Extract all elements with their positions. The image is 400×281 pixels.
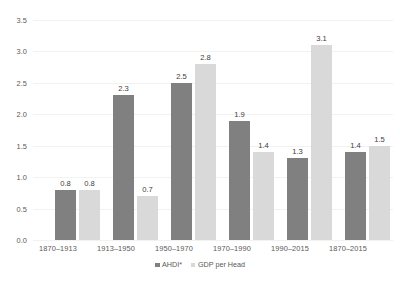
y-tick-label: 2.0 — [16, 111, 27, 118]
bar-group: 1.9 1.4 — [229, 20, 279, 246]
legend-swatch-icon — [191, 263, 196, 268]
legend-item-gdp[interactable]: GDP per Head — [191, 261, 245, 268]
legend-swatch-icon — [155, 263, 160, 268]
bar-ahdi[interactable]: 2.3 — [113, 95, 134, 240]
bar-gdp[interactable]: 0.7 — [137, 196, 158, 240]
bar-group: 1.4 1.5 — [345, 20, 395, 246]
bar-chart: 0.8 0.8 2.3 0.7 2.5 2.8 — [0, 0, 400, 281]
bar-value-label: 2.3 — [109, 85, 139, 93]
y-tick-label: 1.0 — [16, 174, 27, 181]
bar-value-label: 2.8 — [191, 54, 221, 62]
x-axis: 1870–1913 1913–1950 1950–1970 1970–1990 … — [0, 245, 400, 259]
chart-legend: AHDI* GDP per Head — [0, 259, 400, 271]
bar-ahdi[interactable]: 0.8 — [55, 190, 76, 240]
bar-gdp[interactable]: 0.8 — [79, 190, 100, 240]
y-tick-label: 1.5 — [16, 143, 27, 150]
bar-value-label: 1.9 — [225, 111, 255, 119]
x-tick-label: 1870–2015 — [313, 245, 383, 252]
y-tick-label: 0.0 — [16, 237, 27, 244]
legend-item-ahdi[interactable]: AHDI* — [155, 261, 182, 268]
bar-value-label: 1.3 — [283, 148, 313, 156]
y-axis: 3.5 3.0 2.5 2.0 1.5 1.0 0.5 0.0 — [0, 0, 30, 281]
bar-group: 0.8 0.8 — [55, 20, 105, 246]
bar-value-label: 0.8 — [75, 180, 105, 188]
y-tick-label: 3.0 — [16, 48, 27, 55]
bar-gdp[interactable]: 1.5 — [369, 146, 390, 240]
bar-ahdi[interactable]: 1.9 — [229, 121, 250, 240]
legend-label: AHDI* — [162, 261, 182, 268]
bar-value-label: 3.1 — [307, 35, 337, 43]
bar-value-label: 2.5 — [167, 73, 197, 81]
y-tick-label: 3.5 — [16, 17, 27, 24]
bar-group: 2.5 2.8 — [171, 20, 221, 246]
y-tick-label: 2.5 — [16, 80, 27, 87]
bar-gdp[interactable]: 1.4 — [253, 152, 274, 240]
bar-value-label: 0.7 — [133, 186, 163, 194]
y-tick-label: 0.5 — [16, 206, 27, 213]
bar-value-label: 1.5 — [365, 136, 395, 144]
legend-label: GDP per Head — [198, 261, 245, 268]
bar-ahdi[interactable]: 1.4 — [345, 152, 366, 240]
bar-group: 1.3 3.1 — [287, 20, 337, 246]
bar-gdp[interactable]: 2.8 — [195, 64, 216, 240]
bar-gdp[interactable]: 3.1 — [311, 45, 332, 240]
bar-group: 2.3 0.7 — [113, 20, 163, 246]
bar-value-label: 1.4 — [249, 142, 279, 150]
plot-area: 0.8 0.8 2.3 0.7 2.5 2.8 — [33, 14, 393, 246]
bar-ahdi[interactable]: 1.3 — [287, 158, 308, 240]
bar-ahdi[interactable]: 2.5 — [171, 83, 192, 240]
